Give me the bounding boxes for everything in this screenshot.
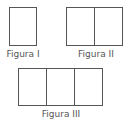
figure-2-cell-2 <box>95 8 122 45</box>
figure-1-rectangle <box>9 7 37 46</box>
figure-2-cell-1 <box>67 8 95 45</box>
figure-3-label: Figura III <box>36 109 86 119</box>
figure-3-rectangle <box>18 68 103 106</box>
figure-3-cell-2 <box>47 69 75 105</box>
figure-1-label: Figura I <box>3 49 43 59</box>
figure-1-cell-1 <box>10 8 36 45</box>
figure-2-rectangle <box>66 7 123 46</box>
figure-3-cell-3 <box>75 69 102 105</box>
figure-3-cell-1 <box>19 69 47 105</box>
figure-2-label: Figura II <box>74 49 118 59</box>
